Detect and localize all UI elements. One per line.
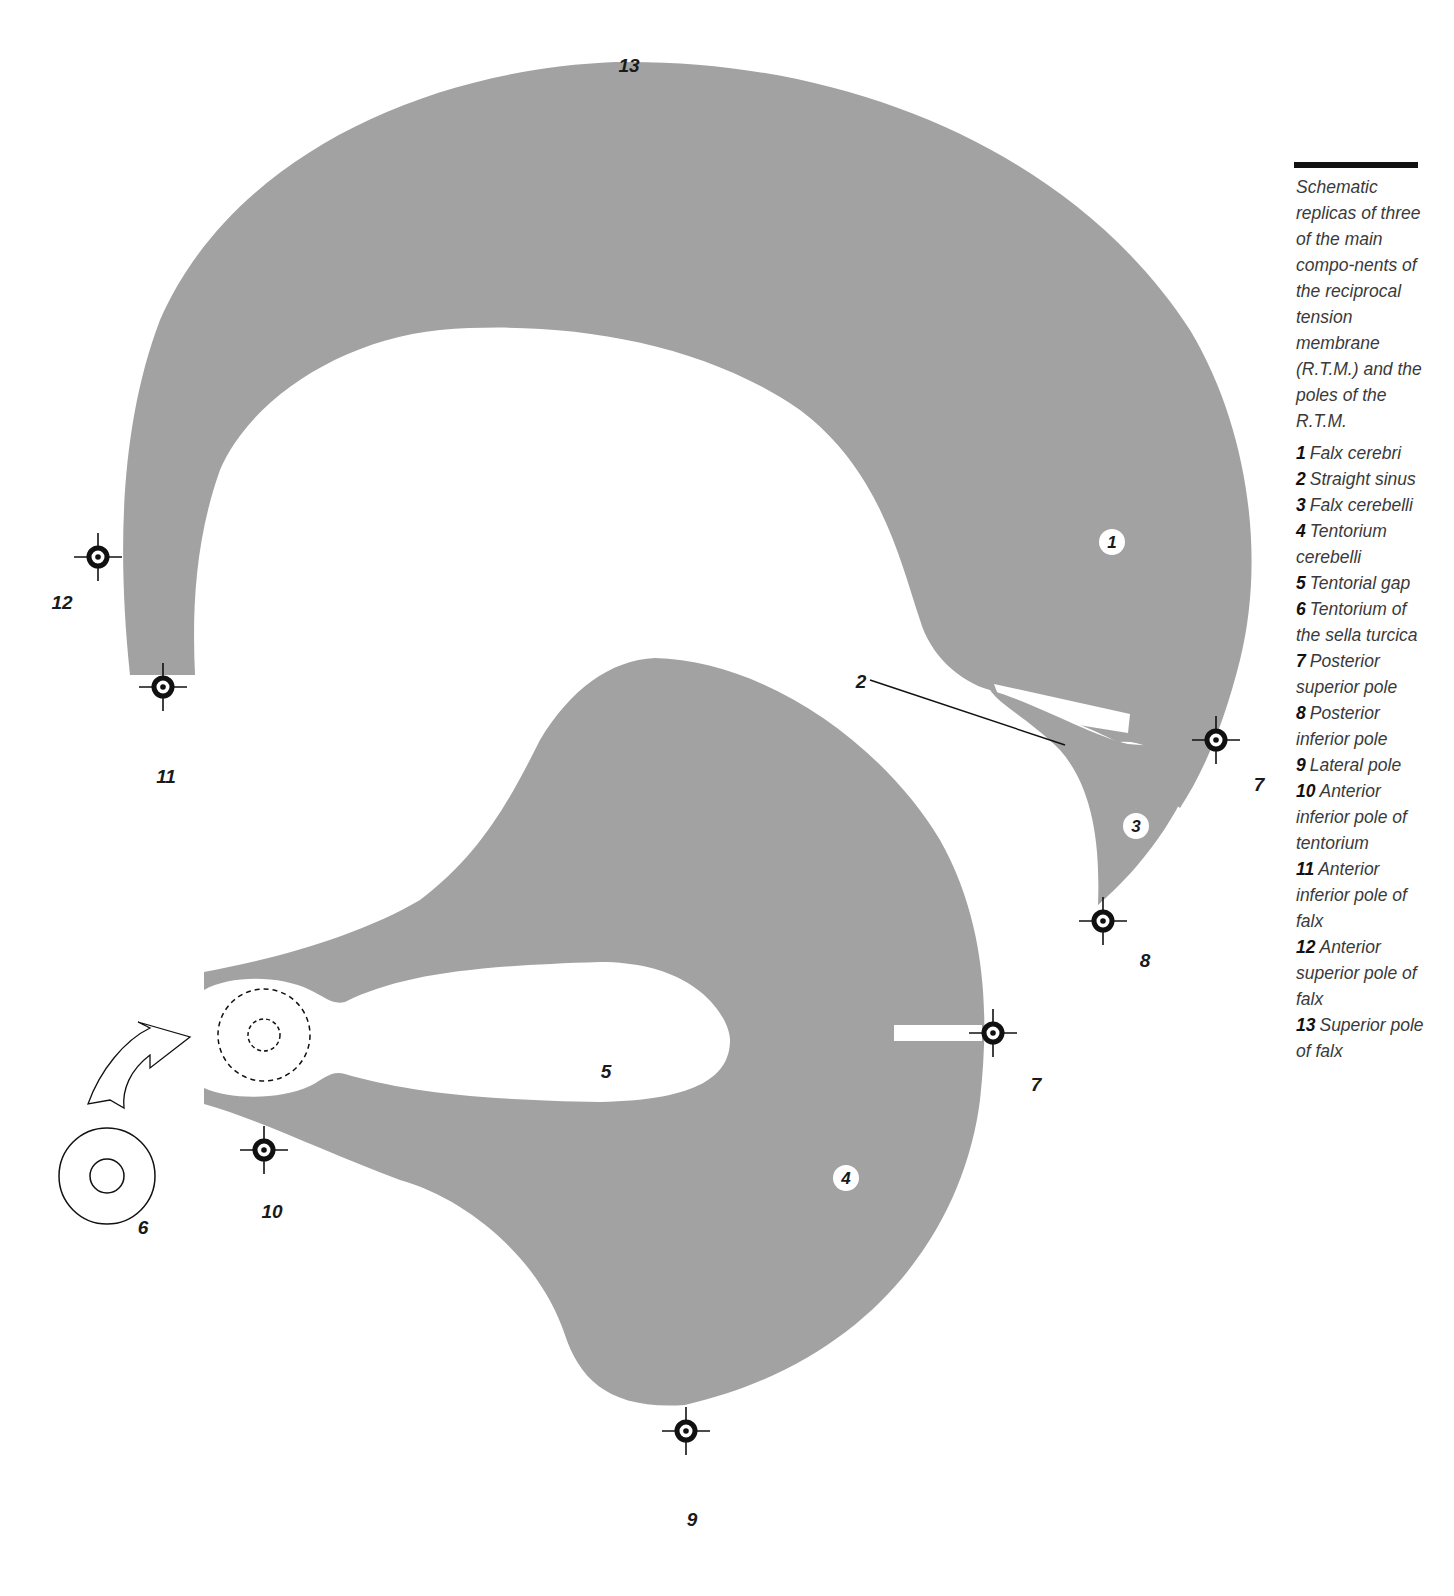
label-2: 2 bbox=[855, 671, 867, 692]
legend-item: 1Falx cerebri bbox=[1296, 440, 1426, 466]
legend-num: 3 bbox=[1296, 495, 1306, 515]
pole-10-marker-icon bbox=[240, 1126, 288, 1174]
legend-num: 6 bbox=[1296, 599, 1306, 619]
pole-9-marker-icon bbox=[662, 1407, 710, 1455]
legend-item: 2Straight sinus bbox=[1296, 466, 1426, 492]
label-5: 5 bbox=[601, 1061, 612, 1082]
legend-item: 5Tentorial gap bbox=[1296, 570, 1426, 596]
legend-text: Straight sinus bbox=[1310, 469, 1416, 489]
legend-text: Tentorial gap bbox=[1310, 573, 1411, 593]
pole-8-marker-icon bbox=[1079, 897, 1127, 945]
legend-num: 4 bbox=[1296, 521, 1306, 541]
rtm-diagram: 1 3 4 13 12 11 2 7 8 7 5 6 10 9 bbox=[0, 0, 1454, 1596]
legend-num: 8 bbox=[1296, 703, 1306, 723]
tentorium-posterior-slit bbox=[894, 1025, 982, 1041]
label-7-falx: 7 bbox=[1254, 774, 1266, 795]
label-8: 8 bbox=[1140, 950, 1151, 971]
legend-item: 10Anterior inferior pole of tentorium bbox=[1296, 778, 1426, 856]
legend-num: 12 bbox=[1296, 937, 1315, 957]
legend-item: 12Anterior superior pole of falx bbox=[1296, 934, 1426, 1012]
label-13: 13 bbox=[618, 55, 640, 76]
sella-turcica-inner bbox=[90, 1159, 124, 1193]
label-10: 10 bbox=[261, 1201, 283, 1222]
legend-text: Superior pole of falx bbox=[1296, 1015, 1424, 1061]
legend-item: 9Lateral pole bbox=[1296, 752, 1426, 778]
legend-num: 1 bbox=[1296, 443, 1306, 463]
legend-item: 13Superior pole of falx bbox=[1296, 1012, 1426, 1064]
legend-text: Tentorium of the sella turcica bbox=[1296, 599, 1418, 645]
legend-num: 11 bbox=[1296, 859, 1314, 879]
pole-12-marker-icon bbox=[74, 533, 122, 581]
legend-item: 7Posterior superior pole bbox=[1296, 648, 1426, 700]
legend-num: 10 bbox=[1296, 781, 1315, 801]
badge-4-label: 4 bbox=[840, 1169, 851, 1188]
badge-3-label: 3 bbox=[1131, 817, 1141, 836]
legend-num: 13 bbox=[1296, 1015, 1315, 1035]
legend-num: 7 bbox=[1296, 651, 1306, 671]
legend-text: Tentorium cerebelli bbox=[1296, 521, 1387, 567]
caption-intro: Schematic replicas of three of the main … bbox=[1296, 174, 1426, 434]
tentorial-gap bbox=[204, 962, 730, 1102]
label-9: 9 bbox=[687, 1509, 698, 1530]
sella-turcica-outer bbox=[59, 1128, 155, 1224]
legend-text: Posterior superior pole bbox=[1296, 651, 1397, 697]
legend-text: Falx cerebri bbox=[1310, 443, 1401, 463]
legend-text: Falx cerebelli bbox=[1310, 495, 1413, 515]
badge-1-label: 1 bbox=[1107, 533, 1116, 552]
figure-caption: Schematic replicas of three of the main … bbox=[1296, 162, 1426, 1064]
label-12: 12 bbox=[51, 592, 73, 613]
legend-item: 4Tentorium cerebelli bbox=[1296, 518, 1426, 570]
label-11: 11 bbox=[156, 766, 176, 787]
legend-num: 5 bbox=[1296, 573, 1306, 593]
legend-item: 8Posterior inferior pole bbox=[1296, 700, 1426, 752]
caption-rule bbox=[1294, 162, 1418, 168]
legend-text: Lateral pole bbox=[1310, 755, 1401, 775]
legend-num: 2 bbox=[1296, 469, 1306, 489]
legend-item: 6Tentorium of the sella turcica bbox=[1296, 596, 1426, 648]
label-6: 6 bbox=[138, 1217, 149, 1238]
label-7-tentorium: 7 bbox=[1031, 1074, 1043, 1095]
legend-item: 11Anterior inferior pole of falx bbox=[1296, 856, 1426, 934]
curved-arrow-icon bbox=[88, 1022, 190, 1108]
legend-text: Posterior inferior pole bbox=[1296, 703, 1387, 749]
legend-num: 9 bbox=[1296, 755, 1306, 775]
legend-item: 3Falx cerebelli bbox=[1296, 492, 1426, 518]
